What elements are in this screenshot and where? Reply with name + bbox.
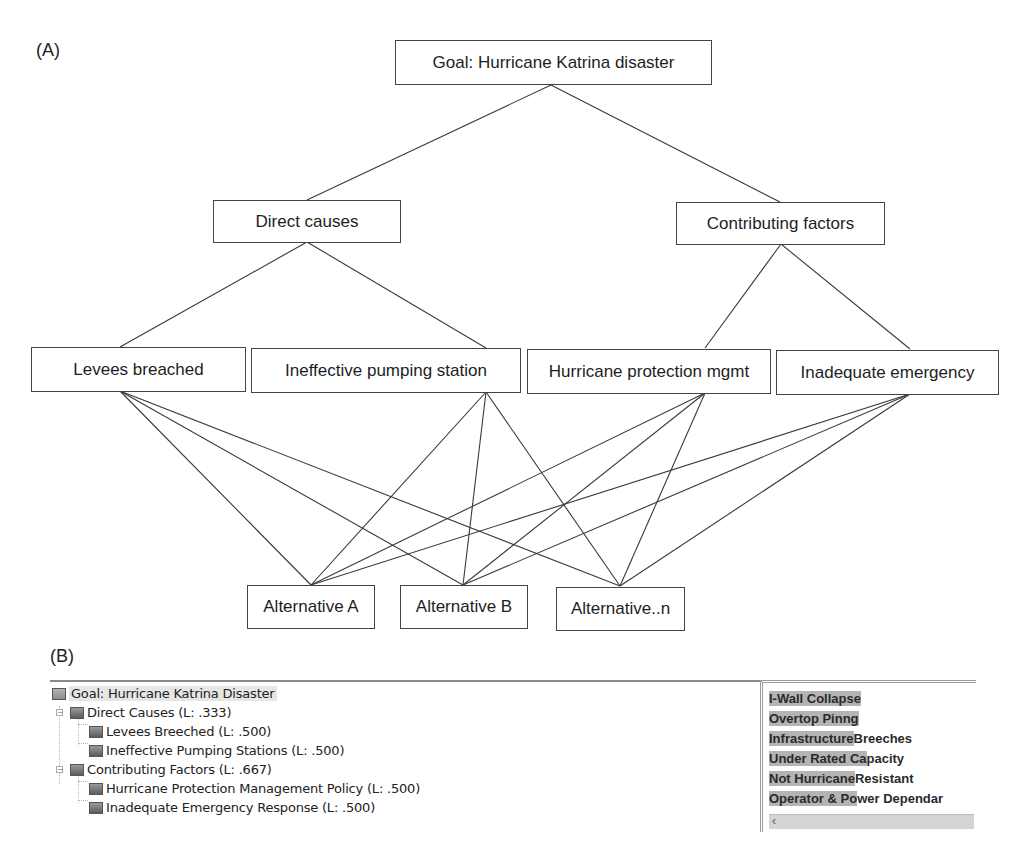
tree-node-label: Ineffective Pumping Stations (L: .500) [106,743,344,758]
criterion-label: Direct causes [256,212,359,232]
subcriterion-label: Ineffective pumping station [285,361,487,381]
list-item-highlight: Operator & Po [769,791,857,806]
tree-node-label: Inadequate Emergency Response (L: .500) [106,800,375,815]
subcriterion-label: Inadequate emergency [801,363,975,383]
list-item-overtop[interactable]: Overtop Pinng [769,708,859,728]
alternative-label: Alternative A [263,597,358,617]
alternative-node-n: Alternative..n [556,587,685,631]
list-item-highlight: Not Hurricane [769,771,855,786]
tree-guide [78,743,88,744]
subcriterion-node-hurricane-protection: Hurricane protection mgmt [527,349,771,394]
alternative-node-b: Alternative B [400,585,528,629]
subcriterion-node-ineffective-pumping: Ineffective pumping station [251,348,521,393]
list-item-rest: pacity [867,751,905,766]
node-icon [89,745,103,757]
node-icon [52,688,66,700]
tree-guide [78,781,88,782]
list-item-rest: Breeches [854,731,913,746]
subcriterion-label: Levees breached [73,360,203,380]
tree-node-hurricane-protection[interactable]: Hurricane Protection Management Policy (… [89,779,420,798]
tree-node-ineffective-pumping[interactable]: Ineffective Pumping Stations (L: .500) [89,741,344,760]
list-item-infrastructure[interactable]: Infrastructure Breeches [769,728,912,748]
goal-node: Goal: Hurricane Katrina disaster [395,40,712,85]
node-icon [70,707,84,719]
tree-node-label: Levees Breeched (L: .500) [106,724,271,739]
tree-node-label: Contributing Factors (L: .667) [87,762,272,777]
list-item-highlight: Under Rated Ca [769,751,867,766]
tree-node-label: Direct Causes (L: .333) [87,705,231,720]
list-item-not-hurricane[interactable]: Not Hurricane Resistant [769,768,914,788]
tree-node-inadequate-emergency[interactable]: Inadequate Emergency Response (L: .500) [89,798,375,817]
node-icon [70,764,84,776]
subcriterion-node-levees-breached: Levees breached [31,347,246,392]
tree-node-goal[interactable]: Goal: Hurricane Katrina Disaster [52,684,277,703]
list-item-rest: wer Dependar [857,791,943,806]
list-item-under-rated[interactable]: Under Rated Capacity [769,748,904,768]
tree-node-label: Hurricane Protection Management Policy (… [106,781,420,796]
tree-panel-border [50,680,762,682]
tree-node-levees-breeched[interactable]: Levees Breeched (L: .500) [89,722,271,741]
list-item-highlight: Overtop Pinng [769,711,859,726]
alternative-label: Alternative..n [571,599,670,619]
criterion-node-contributing-factors: Contributing factors [676,202,885,245]
alternative-node-a: Alternative A [247,585,375,629]
list-item-highlight: I-Wall Collapse [769,691,861,706]
tree-node-label: Goal: Hurricane Katrina Disaster [69,686,277,701]
tree-guide [78,724,88,725]
alternative-label: Alternative B [416,597,512,617]
list-item-i-wall-collapse[interactable]: I-Wall Collapse [769,688,861,708]
panel-b-label: (B) [50,646,74,667]
list-item-operator-power[interactable]: Operator & Power Dependar [769,788,943,808]
subcriterion-label: Hurricane protection mgmt [549,362,749,382]
criterion-label: Contributing factors [707,214,854,234]
collapse-toggle-icon[interactable]: − [56,766,63,773]
list-item-highlight: Infrastructure [769,731,854,746]
tree-node-direct-causes[interactable]: Direct Causes (L: .333) [70,703,231,722]
scroll-left-icon[interactable]: ‹ [772,814,776,828]
node-icon [89,802,103,814]
alternatives-list-panel: I-Wall Collapse Overtop Pinng Infrastruc… [760,680,976,832]
collapse-toggle-icon[interactable]: − [56,709,63,716]
criterion-node-direct-causes: Direct causes [213,200,401,243]
subcriterion-node-inadequate-emergency: Inadequate emergency [776,350,999,395]
tree-node-contributing-factors[interactable]: Contributing Factors (L: .667) [70,760,272,779]
node-icon [89,726,103,738]
horizontal-scrollbar[interactable]: ‹ [769,814,974,829]
list-item-rest: Resistant [855,771,914,786]
tree-guide [78,800,88,801]
goal-label: Goal: Hurricane Katrina disaster [433,53,675,73]
node-icon [89,783,103,795]
